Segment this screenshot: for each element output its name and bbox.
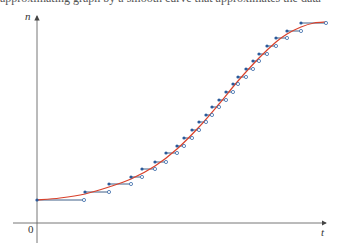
step-function-data bbox=[37, 23, 326, 200]
step-endpoints bbox=[35, 21, 327, 201]
filled-endpoint bbox=[274, 36, 277, 39]
filled-endpoint bbox=[285, 29, 288, 32]
filled-endpoint bbox=[190, 128, 193, 131]
open-endpoint bbox=[324, 21, 327, 24]
filled-endpoint bbox=[140, 167, 143, 170]
open-endpoint bbox=[265, 52, 268, 55]
origin-label: 0 bbox=[28, 223, 34, 235]
open-endpoint bbox=[153, 167, 156, 170]
open-endpoint bbox=[257, 59, 260, 62]
filled-endpoint bbox=[153, 160, 156, 163]
open-endpoint bbox=[164, 160, 167, 163]
open-endpoint bbox=[204, 120, 207, 123]
smooth-curve bbox=[37, 22, 326, 200]
filled-endpoint bbox=[129, 175, 132, 178]
open-endpoint bbox=[244, 75, 247, 78]
open-endpoint bbox=[175, 151, 178, 154]
open-endpoint bbox=[210, 113, 213, 116]
filled-endpoint bbox=[224, 90, 227, 93]
open-endpoint bbox=[190, 136, 193, 139]
open-endpoint bbox=[285, 36, 288, 39]
open-endpoint bbox=[182, 144, 185, 147]
filled-endpoint bbox=[251, 59, 254, 62]
open-endpoint bbox=[197, 128, 200, 131]
y-axis-label: n bbox=[25, 10, 31, 22]
open-endpoint bbox=[107, 190, 110, 193]
filled-endpoint bbox=[299, 21, 302, 24]
logistic-step-diagram: 0 t n bbox=[0, 0, 337, 250]
filled-endpoint bbox=[257, 52, 260, 55]
open-endpoint bbox=[217, 105, 220, 108]
filled-endpoint bbox=[107, 182, 110, 185]
filled-endpoint bbox=[197, 120, 200, 123]
filled-endpoint bbox=[182, 136, 185, 139]
open-endpoint bbox=[274, 44, 277, 47]
open-endpoint bbox=[231, 90, 234, 93]
open-endpoint bbox=[82, 198, 85, 201]
filled-endpoint bbox=[83, 190, 86, 193]
filled-endpoint bbox=[217, 98, 220, 101]
filled-endpoint bbox=[231, 82, 234, 85]
x-axis-label: t bbox=[321, 226, 325, 238]
filled-endpoint bbox=[265, 44, 268, 47]
open-endpoint bbox=[140, 175, 143, 178]
open-endpoint bbox=[129, 182, 132, 185]
filled-endpoint bbox=[236, 75, 239, 78]
filled-endpoint bbox=[175, 144, 178, 147]
open-endpoint bbox=[299, 29, 302, 32]
open-endpoint bbox=[236, 82, 239, 85]
filled-endpoint bbox=[210, 105, 213, 108]
filled-endpoint bbox=[244, 67, 247, 70]
open-endpoint bbox=[224, 98, 227, 101]
filled-endpoint bbox=[35, 198, 38, 201]
filled-endpoint bbox=[164, 151, 167, 154]
filled-endpoint bbox=[204, 113, 207, 116]
open-endpoint bbox=[251, 67, 254, 70]
